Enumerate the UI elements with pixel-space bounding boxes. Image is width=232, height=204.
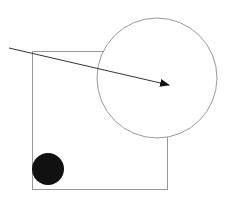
large-circle-shape xyxy=(97,18,217,138)
diagram-canvas xyxy=(0,0,232,204)
small-filled-circle-shape xyxy=(32,153,64,185)
